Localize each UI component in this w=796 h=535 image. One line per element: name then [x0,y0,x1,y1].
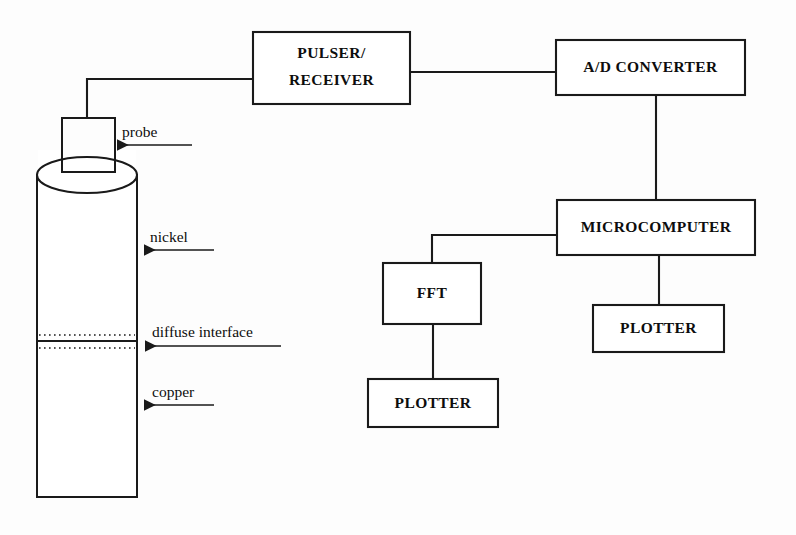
callout-label-copper: copper [152,383,195,400]
block-pulser-receiver-label-line2: RECEIVER [289,71,374,88]
callout-label-diffuse-interface: diffuse interface [152,323,253,340]
block-fft[interactable]: FFT [383,263,481,324]
block-pulser-receiver-label-line1: PULSER/ [297,44,366,61]
cylinder-body [37,175,137,497]
callout-label-nickel: nickel [150,228,188,245]
callout-label-probe: probe [122,123,157,140]
wire-probe-to-pulser [87,79,253,118]
block-ad-converter-label: A/D CONVERTER [583,58,718,75]
block-plotter-right-label: PLOTTER [620,319,697,336]
system-block-diagram: probe nickel diffuse interface copper PU… [0,0,796,535]
block-plotter-bottom-label: PLOTTER [395,394,472,411]
callout-group: probe nickel diffuse interface copper [118,123,281,405]
block-ad-converter[interactable]: A/D CONVERTER [556,40,745,95]
block-microcomputer-label: MICROCOMPUTER [581,218,732,235]
block-plotter-bottom[interactable]: PLOTTER [368,379,498,427]
block-fft-label: FFT [417,284,448,301]
block-pulser-receiver[interactable]: PULSER/ RECEIVER [253,32,410,104]
cylinder-top-ellipse [37,157,137,193]
diagram-canvas: probe nickel diffuse interface copper PU… [0,0,796,535]
wire-microcomputer-to-fft [432,235,557,263]
block-plotter-right[interactable]: PLOTTER [593,305,724,352]
block-microcomputer[interactable]: MICROCOMPUTER [557,200,755,255]
specimen-cylinder [37,150,137,497]
